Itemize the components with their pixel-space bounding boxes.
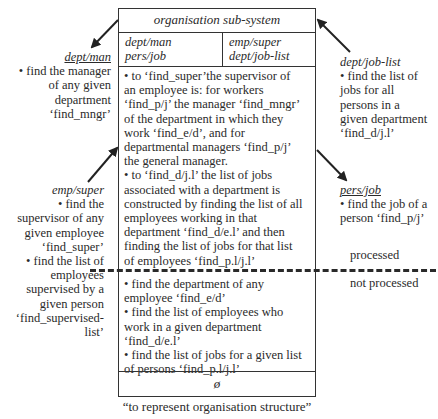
organisation-subsystem-box: organisation sub-system dept/man pers/jo… [118,8,316,397]
text-line: ‘find_d/e.l’ [124,334,312,348]
annotation-dept-man: dept/man • find the manager of any given… [0,50,111,121]
text-line: list’ [0,325,104,339]
text-line: work in a given department [124,320,312,334]
header-left-line: pers/job [125,49,216,63]
text-line: • find the list of [0,254,104,268]
annotation-dept-job-list: dept/job-list • find the list of jobs fo… [340,55,438,140]
text-line: finding the list of jobs for that list [124,239,312,253]
not-processed-description: • find the department of any employee ‘f… [124,277,312,376]
text-line: • find the job of a [340,197,438,211]
text-line: • find the list of jobs for a given list [124,348,312,362]
text-line: ‘find_mngr’ [0,107,111,121]
text-line: the general manager. [124,154,312,168]
arrow-dept-man [92,20,118,47]
text-line: work ‘find_e/d’, and for [124,126,312,140]
arrow-pers-job [317,150,346,180]
text-line: • to ‘find_super’the supervisor of [124,69,312,83]
text-line: of any given [0,78,111,92]
text-line: given person [0,297,104,311]
caption: “to represent organisation structure” [118,399,316,415]
annotation-label: dept/job-list [340,55,438,69]
text-line: associated with a department is [124,183,312,197]
text-line: employee ‘find_e/d’ [124,291,312,305]
text-line: given employee [0,226,104,240]
text-line: jobs for all [340,83,438,97]
text-line: • find the list of employees who [124,305,312,319]
header-right-line: emp/super [229,35,309,49]
text-line: person ‘find_p/j’ [340,211,438,225]
text-line: • to ‘find_d/j.l’ the list of jobs [124,168,312,182]
annotation-label: emp/super [0,183,104,197]
annotation-label: dept/man [0,50,111,64]
text-line: constructed by finding the list of all [124,197,312,211]
text-line: department ‘find_d/e.l’ and then [124,225,312,239]
text-line: given department [340,112,438,126]
processed-description: • to ‘find_super’the supervisor of an em… [124,69,312,268]
header-row: dept/man pers/job emp/super dept/job-lis… [119,33,315,67]
annotation-label: pers/job [340,183,438,197]
text-line: • find the [0,197,104,211]
subsystem-title: organisation sub-system [119,9,315,33]
text-line: supervised by a [0,282,104,296]
text-line: persons in a [340,98,438,112]
processed-boundary-dashed-line [90,269,436,272]
text-line: ‘find_supervised- [0,311,104,325]
text-line: of employees ‘find_p.l/j.l’ [124,254,312,268]
text-line: ‘find_p/j’ the manager ‘find_mngr’ [124,97,312,111]
text-line: • find the list of [340,69,438,83]
text-line: ‘find_super’ [0,240,104,254]
arrow-emp-super [88,148,117,182]
text-line: supervisor of any [0,211,104,225]
text-line: • find the department of any [124,277,312,291]
header-right-cell: emp/super dept/job-list [223,33,315,66]
header-left-cell: dept/man pers/job [119,33,223,66]
text-line: • find the manager [0,64,111,78]
status-not-processed-label: not processed [350,276,438,290]
text-line: an employee is: for workers [124,83,312,97]
text-line: department [0,93,111,107]
text-line: of the department in which they [124,112,312,126]
header-left-line: dept/man [125,35,216,49]
text-line: employees working in that [124,211,312,225]
text-line: ‘find_d/j.l’ [340,126,438,140]
status-processed-label: processed [350,248,438,262]
header-right-line: dept/job-list [229,49,309,63]
text-line: employees [0,268,104,282]
annotation-emp-super: emp/super • find the supervisor of any g… [0,183,104,339]
annotation-pers-job: pers/job • find the job of a person ‘fin… [340,183,438,226]
empty-set-row: ø [119,371,315,396]
arrow-dept-job-list [318,20,350,52]
text-line: departmental managers ‘find_p/j’ [124,140,312,154]
